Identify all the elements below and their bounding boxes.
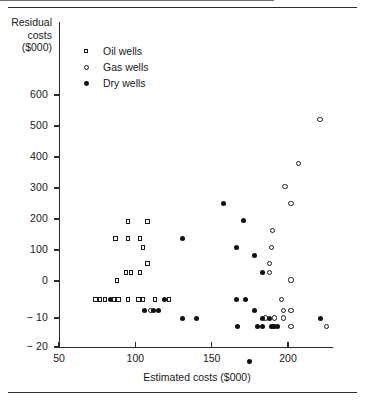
- data-point-oil-wells: [116, 297, 120, 301]
- data-point-gas-wells: [288, 201, 293, 206]
- data-point-dry-wells: [221, 201, 226, 206]
- data-point-oil-wells: [126, 236, 130, 240]
- x-tick-label-50: 50: [39, 353, 79, 364]
- legend-label-gas-wells: Gas wells: [103, 62, 149, 73]
- y-axis-title: Residual costs ($000): [2, 16, 52, 54]
- data-point-gas-wells: [281, 308, 286, 313]
- data-point-oil-wells: [153, 297, 157, 301]
- y-tick-label-0: 0: [8, 275, 48, 286]
- data-point-dry-wells: [235, 324, 240, 329]
- x-tick-200: [287, 342, 288, 348]
- y-tick-200: [54, 218, 60, 219]
- x-axis-title: Estimated costs ($000): [60, 371, 334, 383]
- data-point-dry-wells: [275, 324, 280, 329]
- data-point-oil-wells: [141, 297, 145, 301]
- x-axis-line: [59, 347, 333, 348]
- zero-reference-line: [0, 0, 274, 1]
- y-tick-label-500: 500: [8, 120, 48, 131]
- data-point-oil-wells: [103, 297, 107, 301]
- data-point-dry-wells: [252, 308, 257, 313]
- data-point-gas-wells: [270, 228, 275, 233]
- y-tick-label-200: 200: [8, 213, 48, 224]
- data-point-dry-wells: [142, 308, 147, 313]
- open-circle-icon: [84, 65, 89, 70]
- y-tick-label--10: − 10: [8, 312, 48, 323]
- x-tick-label-100: 100: [115, 353, 155, 364]
- y-tick-label--20: − 20: [8, 341, 48, 352]
- data-point-dry-wells: [180, 316, 185, 321]
- data-point-gas-wells: [281, 315, 286, 320]
- data-point-dry-wells: [241, 218, 246, 223]
- data-point-dry-wells: [318, 316, 323, 321]
- data-point-gas-wells: [296, 161, 301, 166]
- data-point-dry-wells: [156, 308, 161, 313]
- data-point-gas-wells: [269, 245, 274, 250]
- data-point-dry-wells: [252, 253, 257, 258]
- data-point-oil-wells: [129, 270, 133, 274]
- y-tick-label-100: 100: [8, 244, 48, 255]
- data-point-oil-wells: [126, 297, 130, 301]
- data-point-gas-wells: [272, 315, 277, 320]
- data-point-gas-wells: [267, 270, 272, 275]
- data-point-oil-wells: [167, 297, 171, 301]
- data-point-gas-wells: [324, 324, 329, 329]
- y-axis-line: [59, 22, 60, 347]
- x-tick-100: [135, 342, 136, 348]
- filled-circle-icon: [84, 81, 89, 86]
- y-tick-label-300: 300: [8, 182, 48, 193]
- legend-label-oil-wells: Oil wells: [103, 46, 142, 57]
- x-tick-label-150: 150: [192, 353, 232, 364]
- data-point-gas-wells: [267, 261, 272, 266]
- y-tick-400: [54, 156, 60, 157]
- scatter-plot: Residual costs ($000) Estimated costs ($…: [0, 0, 365, 403]
- y-tick--10: [54, 317, 60, 318]
- figure-container: Residual costs ($000) Estimated costs ($…: [0, 0, 365, 403]
- y-tick-500: [54, 125, 60, 126]
- data-point-dry-wells: [243, 297, 248, 302]
- data-point-dry-wells: [247, 359, 252, 364]
- y-tick-300: [54, 187, 60, 188]
- open-square-icon: [84, 49, 88, 53]
- data-point-dry-wells: [260, 270, 265, 275]
- data-point-dry-wells: [162, 297, 167, 302]
- data-point-oil-wells: [145, 261, 149, 265]
- data-point-gas-wells: [317, 117, 322, 122]
- x-tick-50: [58, 342, 59, 348]
- x-tick-label-200: 200: [268, 353, 308, 364]
- data-point-oil-wells: [145, 219, 149, 223]
- data-point-oil-wells: [138, 236, 142, 240]
- data-point-dry-wells: [234, 245, 239, 250]
- data-point-oil-wells: [141, 245, 145, 249]
- data-point-gas-wells: [282, 184, 287, 189]
- data-point-dry-wells: [194, 316, 199, 321]
- y-tick-100: [54, 249, 60, 250]
- data-point-dry-wells: [180, 236, 185, 241]
- y-tick-label-600: 600: [8, 89, 48, 100]
- data-point-oil-wells: [138, 270, 142, 274]
- data-point-dry-wells: [260, 316, 265, 321]
- y-axis-title-line-1: Residual: [2, 16, 52, 29]
- legend-label-dry-wells: Dry wells: [103, 78, 146, 89]
- data-point-gas-wells: [288, 308, 293, 313]
- data-point-dry-wells: [234, 297, 239, 302]
- data-point-dry-wells: [267, 316, 272, 321]
- data-point-gas-wells: [288, 324, 293, 329]
- y-axis-title-line-3: ($000): [2, 41, 52, 54]
- x-tick-150: [211, 342, 212, 348]
- y-tick-label-400: 400: [8, 151, 48, 162]
- data-point-gas-wells: [279, 297, 284, 302]
- data-point-oil-wells: [113, 236, 117, 240]
- y-axis-title-line-2: costs: [2, 29, 52, 42]
- y-tick-600: [54, 94, 60, 95]
- data-point-oil-wells: [126, 219, 130, 223]
- data-point-oil-wells: [115, 278, 119, 282]
- data-point-gas-wells: [288, 277, 293, 282]
- data-point-dry-wells: [260, 324, 265, 329]
- y-tick-0: [54, 280, 60, 281]
